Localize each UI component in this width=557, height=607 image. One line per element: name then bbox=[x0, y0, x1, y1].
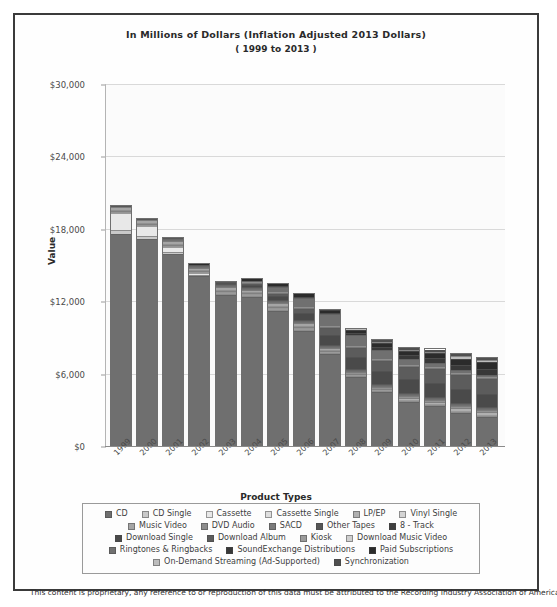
bar-segment bbox=[399, 379, 419, 393]
y-axis-tick-label: $6,000 bbox=[55, 370, 91, 380]
legend-swatch-icon bbox=[142, 511, 149, 518]
legend-item[interactable]: Music Video bbox=[128, 520, 187, 532]
bar-2006[interactable] bbox=[293, 293, 315, 447]
legend-swatch-icon bbox=[153, 559, 160, 566]
bar-2009[interactable] bbox=[371, 339, 393, 447]
bar-segment bbox=[242, 297, 262, 446]
legend-label: Music Video bbox=[139, 520, 187, 532]
legend-label: Download Single bbox=[126, 532, 193, 544]
legend-item[interactable]: LP/EP bbox=[353, 508, 386, 520]
bar-segment bbox=[346, 348, 366, 357]
legend-item[interactable]: SoundExchange Distributions bbox=[226, 544, 355, 556]
legend-item[interactable]: CD Single bbox=[142, 508, 192, 520]
footer-disclaimer: This content is proprietary, any referen… bbox=[30, 588, 554, 597]
legend-swatch-icon bbox=[316, 523, 323, 530]
legend-label: CD bbox=[116, 508, 128, 520]
bar-2007[interactable] bbox=[319, 309, 341, 447]
legend-item[interactable]: SACD bbox=[269, 520, 302, 532]
plot-area: 1999200020012002200320042005200620072008… bbox=[105, 85, 505, 447]
legend-item[interactable]: Download Music Video bbox=[346, 532, 447, 544]
legend-swatch-icon bbox=[346, 535, 353, 542]
legend-label: Download Album bbox=[218, 532, 286, 544]
legend-item[interactable]: Download Single bbox=[115, 532, 193, 544]
bar-2004[interactable] bbox=[241, 278, 263, 447]
bar-2012[interactable] bbox=[450, 353, 472, 447]
legend-item[interactable]: Cassette Single bbox=[265, 508, 338, 520]
legend-label: Paid Subscriptions bbox=[380, 544, 453, 556]
legend-label: Synchronization bbox=[345, 556, 409, 568]
legend-label: SACD bbox=[280, 520, 302, 532]
chart-title-line2: ( 1999 to 2013 ) bbox=[15, 44, 537, 54]
bar-segment bbox=[137, 226, 157, 235]
bar-series-container: 1999200020012002200320042005200620072008… bbox=[105, 85, 505, 447]
legend-swatch-icon bbox=[105, 511, 112, 518]
legend-label: On-Demand Streaming (Ad-Supported) bbox=[164, 556, 320, 568]
legend-item[interactable]: On-Demand Streaming (Ad-Supported) bbox=[153, 556, 320, 568]
bar-segment bbox=[451, 375, 471, 390]
bar-segment bbox=[477, 394, 497, 407]
legend-item[interactable]: 8 - Track bbox=[389, 520, 434, 532]
bar-segment bbox=[372, 371, 392, 384]
bar-segment bbox=[268, 311, 288, 446]
legend-swatch-icon bbox=[128, 523, 135, 530]
y-axis-tick-label: $18,000 bbox=[50, 225, 91, 235]
bar-segment bbox=[111, 213, 131, 230]
legend-row: Ringtones & RingbacksSoundExchange Distr… bbox=[85, 544, 477, 556]
bar-segment bbox=[294, 313, 314, 320]
bar-segment bbox=[346, 335, 366, 346]
legend-label: Ringtones & Ringbacks bbox=[120, 544, 213, 556]
bar-segment bbox=[320, 314, 340, 326]
bar-2003[interactable] bbox=[215, 281, 237, 447]
legend-swatch-icon bbox=[389, 523, 396, 530]
bar-2010[interactable] bbox=[398, 347, 420, 447]
legend-item[interactable]: Ringtones & Ringbacks bbox=[109, 544, 213, 556]
legend-row: CDCD SingleCassetteCassette SingleLP/EPV… bbox=[85, 508, 477, 520]
bar-1999[interactable] bbox=[110, 205, 132, 447]
bar-segment bbox=[163, 254, 183, 446]
bar-segment bbox=[320, 335, 340, 345]
legend-item[interactable]: Synchronization bbox=[334, 556, 409, 568]
legend-item[interactable]: CD bbox=[105, 508, 128, 520]
legend-item[interactable]: Download Album bbox=[207, 532, 286, 544]
bar-2013[interactable] bbox=[476, 357, 498, 447]
legend-swatch-icon bbox=[353, 511, 360, 518]
legend-swatch-icon bbox=[226, 547, 233, 554]
plot-wrapper: 1999200020012002200320042005200620072008… bbox=[91, 73, 511, 463]
bar-segment bbox=[425, 383, 445, 398]
bar-2005[interactable] bbox=[267, 283, 289, 447]
legend-item[interactable]: Paid Subscriptions bbox=[369, 544, 453, 556]
bar-segment bbox=[477, 379, 497, 394]
bar-segment bbox=[137, 239, 157, 446]
legend-swatch-icon bbox=[369, 547, 376, 554]
bar-segment bbox=[477, 362, 497, 369]
legend-swatch-icon bbox=[265, 511, 272, 518]
bar-segment bbox=[294, 298, 314, 307]
bar-segment bbox=[451, 389, 471, 403]
legend-item[interactable]: Cassette bbox=[206, 508, 252, 520]
legend-swatch-icon bbox=[109, 547, 116, 554]
y-axis-tick-label: $12,000 bbox=[50, 297, 91, 307]
chart-title-line1: In Millions of Dollars (Inflation Adjust… bbox=[15, 29, 537, 40]
bar-2000[interactable] bbox=[136, 218, 158, 447]
legend-label: CD Single bbox=[153, 508, 192, 520]
bar-segment bbox=[399, 367, 419, 379]
bar-2011[interactable] bbox=[424, 348, 446, 447]
legend-label: DVD Audio bbox=[212, 520, 255, 532]
bar-2008[interactable] bbox=[345, 328, 367, 447]
bar-2002[interactable] bbox=[188, 263, 210, 447]
x-axis-line bbox=[105, 446, 505, 447]
legend-label: Other Tapes bbox=[327, 520, 375, 532]
y-axis-tick-label: $0 bbox=[74, 442, 91, 452]
legend-item[interactable]: Other Tapes bbox=[316, 520, 375, 532]
legend-item[interactable]: Vinyl Single bbox=[399, 508, 457, 520]
legend-row: Download SingleDownload AlbumKioskDownlo… bbox=[85, 532, 477, 544]
legend-item[interactable]: Kiosk bbox=[300, 532, 332, 544]
legend-item[interactable]: DVD Audio bbox=[201, 520, 255, 532]
bar-segment bbox=[346, 377, 366, 446]
bar-2001[interactable] bbox=[162, 237, 184, 447]
legend-swatch-icon bbox=[334, 559, 341, 566]
x-axis-title: Product Types bbox=[15, 492, 537, 502]
bar-segment bbox=[189, 276, 209, 446]
bar-segment bbox=[320, 354, 340, 446]
bar-segment bbox=[346, 357, 366, 369]
